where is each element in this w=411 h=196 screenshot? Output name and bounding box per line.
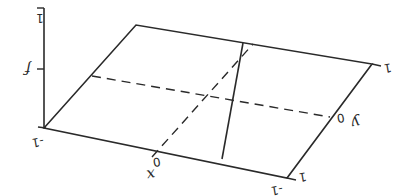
corner-back-tick (38, 127, 46, 128)
tick-label-corner-back: -1 (31, 134, 45, 150)
y-coordinate-line (92, 76, 330, 117)
plane-outline (44, 25, 372, 178)
tick-label-corner-front: -1 (270, 182, 284, 196)
tick-label-x-end: 1 (383, 60, 393, 75)
x-coordinate-line (152, 44, 253, 157)
tick-label-y-zero: 0 (336, 110, 346, 125)
f-axis (37, 8, 44, 128)
y-axis-label: y (350, 113, 363, 132)
f-axis-label: f (23, 60, 32, 78)
tick-label-f-top: 1 (36, 11, 44, 25)
corner-right-tick (372, 64, 381, 66)
tick-label-y-end: 1 (298, 169, 308, 184)
corner-front-tick (287, 178, 296, 180)
intersection-line (222, 43, 243, 159)
plane-diagram: f x y 1 -1 0 0 -1 1 1 (0, 0, 411, 196)
